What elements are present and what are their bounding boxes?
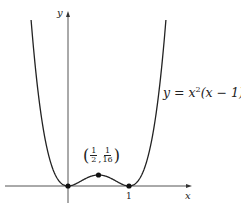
close-paren: ) <box>114 148 120 164</box>
point-marker-2 <box>126 183 131 188</box>
fraction-y: 1 16 <box>103 147 113 164</box>
point-marker-0 <box>65 183 70 188</box>
x-tick-label-1: 1 <box>126 192 132 201</box>
x-axis-label: x <box>185 191 191 201</box>
fraction-x-denominator: 2 <box>91 156 96 164</box>
equation-lhs: y = x <box>163 85 196 100</box>
fraction-y-denominator: 16 <box>103 156 113 164</box>
equation-factor: (x − 1) <box>201 85 241 100</box>
equation-label: y = x2(x − 1)2 <box>163 86 241 100</box>
y-axis-label: y <box>57 8 63 18</box>
fraction-x: 1 2 <box>90 147 97 164</box>
function-plot <box>0 0 241 211</box>
point-marker-1 <box>96 172 101 177</box>
y-axis-arrow-icon <box>66 11 70 17</box>
max-point-label: ( 1 2 , 1 16 ) <box>83 147 120 164</box>
open-paren: ( <box>83 148 89 164</box>
comma: , <box>98 154 101 164</box>
x-axis-arrow-icon <box>186 184 192 188</box>
